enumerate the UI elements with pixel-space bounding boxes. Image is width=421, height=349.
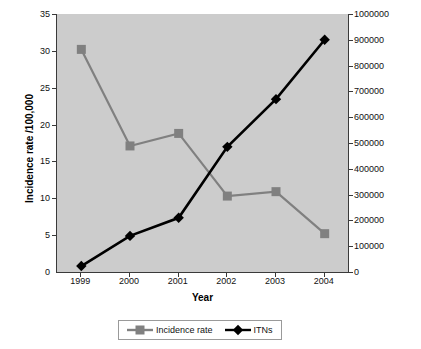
x-tick-label: 2002 [216, 276, 236, 286]
y-right-tick-label: 600000 [354, 113, 384, 122]
series-itns [76, 35, 330, 272]
y-left-tick-mark [52, 235, 56, 236]
y-left-tick-label: 25 [40, 84, 50, 93]
data-point-marker [320, 229, 329, 238]
data-point-marker [223, 192, 232, 201]
y-right-tick-label: 400000 [354, 165, 384, 174]
y-right-tick-mark [349, 220, 353, 221]
y-right-tick-mark [349, 272, 353, 273]
y-right-tick-label: 800000 [354, 62, 384, 71]
series-line [81, 49, 324, 233]
plot-area [56, 14, 349, 273]
x-tick-label: 1999 [70, 276, 90, 286]
data-point-marker [77, 45, 86, 54]
y-left-tick-mark [52, 88, 56, 89]
legend-square-marker-icon [127, 324, 153, 336]
y-right-tick-mark [349, 195, 353, 196]
y-right-tick-mark [349, 66, 353, 67]
x-tick-mark [178, 273, 179, 277]
y-left-tick-label: 10 [40, 194, 50, 203]
y-left-tick-label: 0 [45, 268, 50, 277]
chart-figure: 05101520253035 0100000200000300000400000… [0, 0, 421, 349]
y-right-tick-mark [349, 143, 353, 144]
y-left-tick-mark [52, 14, 56, 15]
y-right-tick-mark [349, 91, 353, 92]
x-axis-title: Year [56, 292, 349, 303]
y-right-tick-mark [349, 40, 353, 41]
y-axis-left-title: Incidence rate /100,000 [24, 64, 35, 234]
series-canvas [57, 14, 349, 272]
x-tick-label: 2000 [119, 276, 139, 286]
data-point-marker [174, 129, 183, 138]
y-right-tick-mark [349, 14, 353, 15]
y-left-tick-mark [52, 125, 56, 126]
y-left-tick-mark [52, 51, 56, 52]
y-right-tick-mark [349, 169, 353, 170]
data-point-marker [232, 325, 242, 335]
y-right-tick-label: 100000 [354, 242, 384, 251]
x-tick-mark [80, 273, 81, 277]
y-left-tick-label: 5 [45, 231, 50, 240]
x-tick-mark [324, 273, 325, 277]
x-tick-mark [226, 273, 227, 277]
x-tick-label: 2001 [168, 276, 188, 286]
series-incidence-rate [77, 45, 329, 238]
legend-label: ITNs [254, 325, 273, 335]
y-right-tick-label: 300000 [354, 191, 384, 200]
x-tick-label: 2003 [265, 276, 285, 286]
x-tick-mark [129, 273, 130, 277]
y-right-tick-label: 500000 [354, 139, 384, 148]
legend-item[interactable]: ITNs [225, 324, 273, 336]
y-right-tick-label: 200000 [354, 216, 384, 225]
data-point-marker [136, 326, 145, 335]
x-tick-mark [275, 273, 276, 277]
y-left-tick-label: 15 [40, 157, 50, 166]
y-axis-right-ticks: 0100000200000300000400000500000600000700… [354, 0, 414, 273]
legend-label: Incidence rate [156, 325, 213, 335]
y-right-tick-label: 0 [354, 268, 359, 277]
y-right-tick-mark [349, 117, 353, 118]
y-right-tick-label: 1000000 [354, 10, 389, 19]
x-axis-ticks: 199920002001200220032004 [56, 276, 349, 292]
y-right-tick-label: 900000 [354, 36, 384, 45]
data-point-marker [272, 187, 281, 196]
data-point-marker [126, 141, 135, 150]
legend-item[interactable]: Incidence rate [127, 324, 213, 336]
x-tick-label: 2004 [314, 276, 334, 286]
y-left-tick-mark [52, 161, 56, 162]
y-left-tick-label: 20 [40, 121, 50, 130]
y-left-tick-label: 35 [40, 10, 50, 19]
legend-diamond-marker-icon [225, 324, 251, 336]
y-right-tick-label: 700000 [354, 87, 384, 96]
chart-legend: Incidence rateITNs [118, 320, 282, 340]
series-line [81, 40, 324, 266]
y-left-tick-mark [52, 198, 56, 199]
y-left-tick-label: 30 [40, 47, 50, 56]
y-right-tick-mark [349, 246, 353, 247]
